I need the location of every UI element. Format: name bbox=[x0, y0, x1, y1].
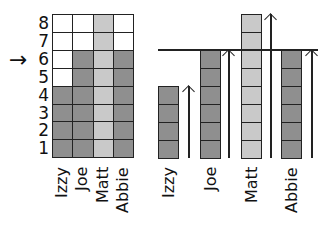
bar-block bbox=[241, 86, 262, 105]
grid-cell bbox=[93, 139, 115, 158]
grid-cell bbox=[52, 86, 74, 105]
grid-cell bbox=[52, 32, 74, 51]
bar-block bbox=[281, 104, 302, 123]
grid-cell bbox=[72, 50, 94, 69]
grid-cell bbox=[52, 104, 74, 123]
grid-cell bbox=[52, 139, 74, 158]
y-axis-tick: 4 bbox=[35, 87, 49, 104]
y-axis-tick: 1 bbox=[35, 140, 49, 157]
bar-block bbox=[241, 140, 262, 159]
grid-cell bbox=[52, 50, 74, 69]
bar-block bbox=[158, 140, 179, 159]
column-label: Matt bbox=[94, 167, 112, 203]
y-axis-tick: 7 bbox=[35, 33, 49, 50]
grid-cell bbox=[52, 68, 74, 87]
grid-cell bbox=[72, 14, 94, 33]
bar-block bbox=[158, 122, 179, 141]
up-arrow-shaft bbox=[311, 50, 313, 158]
bar-block bbox=[241, 14, 262, 33]
grid-cell bbox=[93, 68, 115, 87]
up-arrow-icon bbox=[222, 49, 235, 62]
up-arrow-shaft bbox=[228, 50, 230, 158]
bar-block bbox=[281, 50, 302, 69]
grid-cell bbox=[113, 50, 135, 69]
up-arrow-icon bbox=[264, 13, 277, 26]
y-axis-tick: 8 bbox=[35, 15, 49, 32]
column-label: Izzy bbox=[53, 167, 71, 198]
bar-label: Izzy bbox=[160, 167, 178, 198]
grid-cell bbox=[93, 14, 115, 33]
bar-block bbox=[241, 68, 262, 87]
grid-cell bbox=[72, 104, 94, 123]
grid-cell bbox=[113, 121, 135, 140]
y-axis-tick: 6 bbox=[35, 51, 49, 68]
grid-cell bbox=[72, 32, 94, 51]
bar-label: Matt bbox=[243, 167, 261, 203]
grid-cell bbox=[113, 68, 135, 87]
grid-cell bbox=[72, 139, 94, 158]
y-axis-tick: 2 bbox=[35, 122, 49, 139]
grid-cell bbox=[93, 86, 115, 105]
grid-cell bbox=[93, 32, 115, 51]
grid-cell bbox=[93, 104, 115, 123]
grid-cell bbox=[113, 32, 135, 51]
up-arrow-icon bbox=[305, 49, 318, 62]
bar-block bbox=[241, 122, 262, 141]
bar-block bbox=[200, 122, 221, 141]
grid-cell bbox=[52, 14, 74, 33]
reference-line bbox=[158, 49, 318, 51]
bar-block bbox=[281, 68, 302, 87]
grid-cell bbox=[113, 86, 135, 105]
bar-block bbox=[200, 104, 221, 123]
bar-block bbox=[200, 50, 221, 69]
bar-label: Abbie bbox=[283, 167, 301, 213]
grid-cell bbox=[113, 139, 135, 158]
column-label: Abbie bbox=[114, 167, 132, 213]
bar-block bbox=[281, 86, 302, 105]
grid-cell bbox=[72, 121, 94, 140]
bar-block bbox=[241, 50, 262, 69]
grid-cell bbox=[72, 68, 94, 87]
grid-cell bbox=[72, 86, 94, 105]
bar-block bbox=[158, 86, 179, 105]
up-arrow-icon bbox=[182, 85, 195, 98]
marker-arrow-icon: → bbox=[9, 47, 27, 72]
y-axis-tick: 3 bbox=[35, 105, 49, 122]
grid-cell bbox=[113, 14, 135, 33]
y-axis-tick: 5 bbox=[35, 69, 49, 86]
grid-cell bbox=[93, 50, 115, 69]
bar-label: Joe bbox=[202, 167, 220, 191]
bar-block bbox=[281, 140, 302, 159]
bar-block bbox=[158, 104, 179, 123]
bar-block bbox=[200, 68, 221, 87]
bar-block bbox=[200, 86, 221, 105]
grid-cell bbox=[93, 121, 115, 140]
bar-block bbox=[281, 122, 302, 141]
bar-block bbox=[200, 140, 221, 159]
bar-block bbox=[241, 104, 262, 123]
grid-cell bbox=[52, 121, 74, 140]
column-label: Joe bbox=[73, 167, 91, 191]
up-arrow-shaft bbox=[270, 14, 272, 158]
grid-cell bbox=[113, 104, 135, 123]
